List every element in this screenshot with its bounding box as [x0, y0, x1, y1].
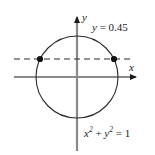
- line-equation-value: 0.45: [109, 21, 128, 33]
- intersection-point-left: [37, 56, 43, 62]
- circle-equation-rhs: 1: [125, 127, 131, 139]
- line-equation-equals: =: [97, 21, 109, 33]
- line-equation-label: y = 0.45: [92, 22, 128, 33]
- intersection-point-right: [111, 56, 117, 62]
- circle-equation-plus: +: [93, 127, 105, 139]
- geometry-figure: [0, 0, 155, 155]
- figure-container: y x y = 0.45 x2 + y2 = 1: [0, 0, 155, 155]
- x-axis-label: x: [129, 62, 134, 73]
- y-axis-label: y: [82, 12, 87, 23]
- circle-equation-label: x2 + y2 = 1: [84, 128, 130, 139]
- circle-equation-equals: =: [113, 127, 125, 139]
